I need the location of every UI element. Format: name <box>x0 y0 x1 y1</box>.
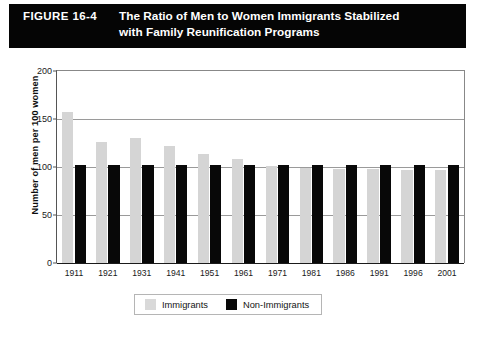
legend-swatch-immigrants <box>145 299 156 310</box>
x-tick-label: 1931 <box>132 268 151 278</box>
bar-group <box>367 71 391 263</box>
figure-screenshot: FIGURE 16-4 The Ratio of Men to Women Im… <box>0 0 477 338</box>
x-tick-label: 1991 <box>370 268 389 278</box>
page-title: The Ratio of Men to Women Immigrants Sta… <box>119 9 399 40</box>
bar-immigrants <box>401 170 412 263</box>
y-axis-title: Number of men per 100 women <box>30 70 40 220</box>
legend-label-non-immigrants: Non-Immigrants <box>243 300 309 310</box>
chart-legend: Immigrants Non-Immigrants <box>134 294 322 315</box>
bar-group <box>333 71 357 263</box>
x-tick-label: 1996 <box>404 268 423 278</box>
figure-title-band: FIGURE 16-4 The Ratio of Men to Women Im… <box>9 4 466 48</box>
x-tick-label: 1971 <box>268 268 287 278</box>
y-tick-label: 0 <box>47 258 52 268</box>
bar-non-immigrants <box>312 165 323 263</box>
bar-non-immigrants <box>244 165 255 263</box>
bar-non-immigrants <box>380 165 391 263</box>
bar-group <box>96 71 120 263</box>
bar-immigrants <box>300 168 311 263</box>
y-tick-label: 50 <box>42 210 52 220</box>
bar-immigrants <box>164 146 175 263</box>
bar-group <box>130 71 154 263</box>
bar-immigrants <box>435 170 446 263</box>
bar-group <box>164 71 188 263</box>
x-tick-label: 1986 <box>336 268 355 278</box>
bar-non-immigrants <box>210 165 221 263</box>
bar-immigrants <box>198 154 209 263</box>
x-tick-label: 1941 <box>166 268 185 278</box>
bar-immigrants <box>130 138 141 263</box>
bar-group <box>401 71 425 263</box>
chart-area: Number of men per 100 women 050100150200… <box>9 48 466 326</box>
legend-item-non-immigrants: Non-Immigrants <box>226 299 309 310</box>
y-tick-label: 100 <box>37 162 52 172</box>
bar-immigrants <box>232 159 243 263</box>
y-tick-label: 200 <box>37 66 52 76</box>
legend-item-immigrants: Immigrants <box>145 299 208 310</box>
bar-group <box>232 71 256 263</box>
bar-immigrants <box>266 166 277 263</box>
bar-non-immigrants <box>346 165 357 263</box>
bar-non-immigrants <box>414 165 425 263</box>
bar-group <box>198 71 222 263</box>
bar-immigrants <box>333 169 344 263</box>
bar-group <box>266 71 290 263</box>
plot-region: 050100150200 191119211931194119511961197… <box>56 70 465 263</box>
x-tick-label: 1981 <box>302 268 321 278</box>
bar-immigrants <box>367 169 378 263</box>
bar-immigrants <box>62 112 73 263</box>
x-tick-label: 1911 <box>65 268 83 278</box>
figure-title-line-1: The Ratio of Men to Women Immigrants Sta… <box>119 9 399 25</box>
bar-series-container: 1911192119311941195119611971198119861991… <box>57 71 464 263</box>
figure-title-line-2: with Family Reunification Programs <box>119 25 399 41</box>
bar-immigrants <box>96 142 107 263</box>
figure-number: FIGURE 16-4 <box>23 9 97 22</box>
legend-label-immigrants: Immigrants <box>162 300 208 310</box>
bar-group <box>300 71 324 263</box>
bar-non-immigrants <box>108 165 119 263</box>
bar-non-immigrants <box>278 165 289 263</box>
bar-non-immigrants <box>176 165 187 263</box>
bar-group <box>435 71 459 263</box>
x-tick-label: 2001 <box>437 268 456 278</box>
x-tick-label: 1961 <box>234 268 253 278</box>
x-tick-label: 1921 <box>98 268 117 278</box>
legend-swatch-non-immigrants <box>226 299 237 310</box>
x-tick-label: 1951 <box>200 268 219 278</box>
bar-non-immigrants <box>142 165 153 263</box>
bar-non-immigrants <box>75 165 86 263</box>
x-axis-baseline <box>57 263 464 264</box>
y-tick-label: 150 <box>37 114 52 124</box>
bar-non-immigrants <box>448 165 459 263</box>
bar-group <box>62 71 86 263</box>
